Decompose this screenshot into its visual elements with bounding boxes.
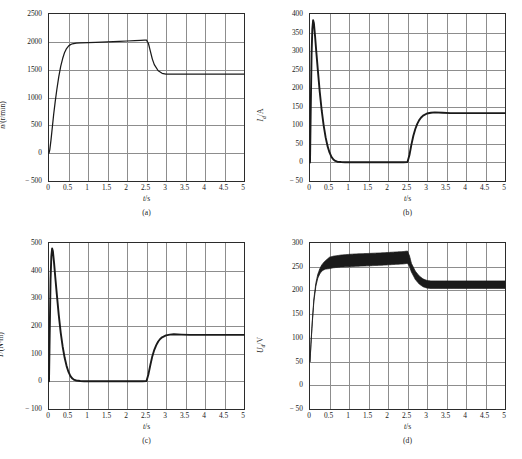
plot-area-b xyxy=(309,13,506,182)
x-tick-label: 0.5 xyxy=(324,411,333,420)
y-tick-label: 100 xyxy=(292,120,303,129)
panel-caption-b: (b) xyxy=(309,208,506,217)
y-tick-label: 100 xyxy=(292,332,303,341)
y-tick-label: 200 xyxy=(31,321,42,330)
y-tick-label: 300 xyxy=(31,293,42,302)
y-tick-label: 350 xyxy=(292,27,303,36)
y-axis-ticks-b: 400350300250200150100500− 50 xyxy=(261,13,306,182)
series-line xyxy=(310,20,505,162)
y-tick-label: 200 xyxy=(292,83,303,92)
x-tick-label: 4 xyxy=(202,411,206,420)
y-tick-label: 50 xyxy=(296,138,303,147)
y-tick-label: − 100 xyxy=(25,404,42,413)
x-tick-label: 1.5 xyxy=(363,411,372,420)
x-tick-label: 4.5 xyxy=(219,411,228,420)
x-tick-label: 2.5 xyxy=(141,183,150,192)
ripple-band xyxy=(310,251,505,362)
y-tick-label: 1000 xyxy=(27,92,42,101)
panel-caption-c: (c) xyxy=(48,436,245,445)
y-axis-label-b: Id/A xyxy=(256,109,267,122)
y-tick-label: 500 xyxy=(31,238,42,247)
subplot-d: 300250200150100500− 50 00.511.522.533.54… xyxy=(261,230,522,459)
x-tick-label: 4 xyxy=(202,183,206,192)
x-tick-label: 3.5 xyxy=(180,411,189,420)
y-tick-label: 50 xyxy=(296,356,303,365)
x-tick-label: 0.5 xyxy=(63,411,72,420)
x-axis-label-c: t/s xyxy=(48,422,245,431)
y-axis-ticks-a: 25002000150010005000− 500 xyxy=(0,13,45,182)
x-tick-label: 3.5 xyxy=(441,411,450,420)
x-tick-label: 1 xyxy=(346,411,350,420)
y-tick-label: − 50 xyxy=(290,404,303,413)
plot-area-d xyxy=(309,242,506,410)
x-tick-label: 2 xyxy=(385,411,389,420)
x-tick-label: 2.5 xyxy=(402,183,411,192)
x-tick-label: 0 xyxy=(46,411,50,420)
x-tick-label: 3 xyxy=(424,411,428,420)
x-tick-label: 3 xyxy=(424,183,428,192)
x-tick-label: 5 xyxy=(241,183,245,192)
data-trace-b xyxy=(310,14,505,181)
x-tick-label: 0 xyxy=(46,183,50,192)
x-tick-label: 0 xyxy=(307,183,311,192)
y-axis-label-d: Ud/V xyxy=(256,337,267,353)
subplot-c: 5004003002001000− 100 00.511.522.533.544… xyxy=(0,230,261,459)
x-tick-label: 4 xyxy=(463,183,467,192)
y-tick-label: 1500 xyxy=(27,64,42,73)
y-tick-label: 400 xyxy=(31,265,42,274)
y-tick-label: 250 xyxy=(292,64,303,73)
y-tick-label: 0 xyxy=(299,380,303,389)
x-tick-label: 4.5 xyxy=(480,411,489,420)
x-tick-label: 4.5 xyxy=(219,183,228,192)
x-tick-label: 2 xyxy=(385,183,389,192)
x-tick-label: 1.5 xyxy=(102,183,111,192)
y-tick-label: 0 xyxy=(38,376,42,385)
x-tick-label: 2.5 xyxy=(141,411,150,420)
y-tick-label: 2000 xyxy=(27,36,42,45)
y-axis-label-a: n/(r/min) xyxy=(0,101,7,128)
x-axis-label-d: t/s xyxy=(309,422,506,431)
y-tick-label: 150 xyxy=(292,101,303,110)
x-tick-label: 2 xyxy=(124,411,128,420)
subplot-b: 400350300250200150100500− 50 00.511.522.… xyxy=(261,0,522,230)
data-trace-d xyxy=(310,243,505,409)
y-tick-label: 150 xyxy=(292,309,303,318)
y-tick-label: 2500 xyxy=(27,9,42,18)
x-tick-label: 0 xyxy=(307,411,311,420)
y-tick-label: 100 xyxy=(31,348,42,357)
y-tick-label: 200 xyxy=(292,285,303,294)
panel-caption-a: (a) xyxy=(48,208,245,217)
y-tick-label: 400 xyxy=(292,9,303,18)
x-tick-label: 3 xyxy=(163,183,167,192)
x-tick-label: 0.5 xyxy=(324,183,333,192)
x-tick-label: 2.5 xyxy=(402,411,411,420)
panel-caption-d: (d) xyxy=(309,436,506,445)
x-tick-label: 4.5 xyxy=(480,183,489,192)
y-tick-label: − 50 xyxy=(290,176,303,185)
x-tick-label: 1.5 xyxy=(363,183,372,192)
x-tick-label: 0.5 xyxy=(63,183,72,192)
x-tick-label: 3.5 xyxy=(180,183,189,192)
subplot-a: 25002000150010005000− 500 00.511.522.533… xyxy=(0,0,261,230)
y-tick-label: − 500 xyxy=(25,176,42,185)
x-tick-label: 4 xyxy=(463,411,467,420)
y-axis-ticks-d: 300250200150100500− 50 xyxy=(261,242,306,410)
series-line xyxy=(49,249,244,382)
y-axis-ticks-c: 5004003002001000− 100 xyxy=(0,242,45,410)
x-axis-label-b: t/s xyxy=(309,194,506,203)
y-tick-label: 300 xyxy=(292,46,303,55)
x-tick-label: 5 xyxy=(241,411,245,420)
y-tick-label: 500 xyxy=(31,120,42,129)
x-tick-label: 1 xyxy=(85,183,89,192)
x-tick-label: 5 xyxy=(502,411,506,420)
y-axis-label-c: T/(N·m) xyxy=(0,332,5,357)
series-line xyxy=(49,40,244,153)
x-tick-label: 1.5 xyxy=(102,411,111,420)
x-tick-label: 3 xyxy=(163,411,167,420)
y-tick-label: 0 xyxy=(38,148,42,157)
data-trace-c xyxy=(49,243,244,409)
data-trace-a xyxy=(49,14,244,181)
x-tick-label: 1 xyxy=(85,411,89,420)
y-tick-label: 0 xyxy=(299,157,303,166)
x-axis-label-a: t/s xyxy=(48,194,245,203)
